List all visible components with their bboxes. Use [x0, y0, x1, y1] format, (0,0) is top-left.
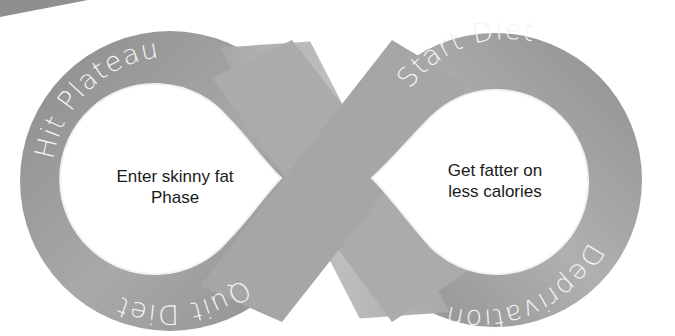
- left-loop-text: Enter skinny fat Phase: [80, 166, 270, 208]
- right-loop-text: Get fatter on less calories: [400, 160, 590, 202]
- right-loop-line1: Get fatter on: [400, 160, 590, 181]
- decorative-band-sliver: [0, 0, 88, 17]
- right-loop-line2: less calories: [400, 181, 590, 202]
- left-loop-line1: Enter skinny fat: [80, 166, 270, 187]
- left-loop-line2: Phase: [80, 187, 270, 208]
